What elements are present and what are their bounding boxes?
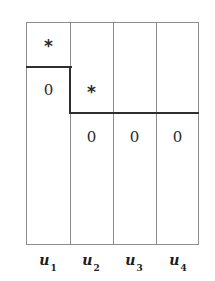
cell-column1-star: * <box>27 38 70 55</box>
column-label-u2-base: u <box>82 252 92 268</box>
cell-column1-zero: 0 <box>27 83 70 98</box>
cell-column2-zero: 0 <box>70 130 113 145</box>
column-label-u2: u2 <box>69 252 112 271</box>
cell-column3-zero: 0 <box>113 130 156 145</box>
column-label-u1: u1 <box>26 252 69 271</box>
column-label-u1-subscript: 1 <box>50 263 56 273</box>
column-label-u1-base: u <box>39 252 49 268</box>
column-label-u4-subscript: 4 <box>180 263 186 273</box>
thick-boundary-lower-horizontal <box>69 112 199 114</box>
column-labels: u1 u2 u3 u4 <box>26 252 199 276</box>
column-label-u4-base: u <box>169 252 179 268</box>
cell-column2-star: * <box>70 84 113 101</box>
thick-boundary-top-column-1 <box>26 66 72 68</box>
column-label-u3-base: u <box>125 252 135 268</box>
column-label-u4: u4 <box>156 252 199 271</box>
column-label-u3-subscript: 3 <box>136 263 142 273</box>
staircase-tableau-figure: * 0 * 0 0 0 u1 u2 u3 u4 <box>0 0 215 281</box>
column-label-u3: u3 <box>112 252 155 271</box>
cell-column4-zero: 0 <box>156 130 199 145</box>
column-label-u2-subscript: 2 <box>93 263 99 273</box>
